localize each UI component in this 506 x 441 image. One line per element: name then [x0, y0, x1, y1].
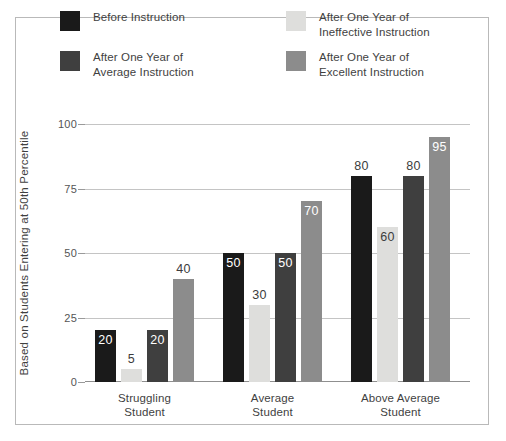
x-axis-label-struggling-student: Struggling Student — [85, 391, 205, 419]
legend-swatch-average-instruction — [60, 51, 80, 71]
bar: 40 — [173, 279, 194, 382]
bar: 20 — [95, 330, 116, 382]
chart-legend: Before Instruction After One Year of Ave… — [60, 8, 464, 90]
bar-value-label: 20 — [95, 333, 116, 347]
legend-item-ineffective-instruction: After One Year of Ineffective Instructio… — [286, 10, 430, 40]
legend-item-before-instruction: Before Instruction — [60, 10, 185, 31]
y-tick-label: 75 — [51, 183, 77, 195]
y-tick-label: 0 — [51, 376, 77, 388]
y-tick-mark — [78, 253, 85, 254]
bar: 80 — [403, 176, 424, 382]
bar-value-label: 20 — [147, 333, 168, 347]
x-axis-label-above-average-student: Above Average Student — [341, 391, 461, 419]
legend-label-average-instruction: After One Year of Average Instruction — [93, 50, 194, 80]
legend-label-excellent-instruction: After One Year of Excellent Instruction — [319, 50, 424, 80]
chart-screenshot: Before Instruction After One Year of Ave… — [0, 0, 506, 441]
y-tick-mark — [78, 382, 85, 383]
bar-value-label: 40 — [173, 262, 194, 276]
plot-area: 025507510020520405030507080608095 — [85, 124, 470, 382]
y-tick-mark — [78, 189, 85, 190]
bar-value-label: 50 — [275, 256, 296, 270]
bar: 20 — [147, 330, 168, 382]
bar-value-label: 60 — [377, 230, 398, 244]
bar: 80 — [351, 176, 372, 382]
x-axis-label-average-student: Average Student — [213, 391, 333, 419]
y-tick-label: 25 — [51, 312, 77, 324]
y-tick-label: 100 — [51, 118, 77, 130]
legend-swatch-ineffective-instruction — [286, 11, 306, 31]
y-tick-mark — [78, 124, 85, 125]
y-tick-mark — [78, 318, 85, 319]
bar: 70 — [301, 201, 322, 382]
bar: 60 — [377, 227, 398, 382]
legend-swatch-before-instruction — [60, 11, 80, 31]
y-tick-label: 50 — [51, 247, 77, 259]
bar-value-label: 80 — [351, 159, 372, 173]
bar-value-label: 50 — [223, 256, 244, 270]
bar-value-label: 95 — [429, 140, 450, 154]
bar: 30 — [249, 305, 270, 382]
legend-item-average-instruction: After One Year of Average Instruction — [60, 50, 194, 80]
y-axis-title: Based on Students Entering at 50th Perce… — [18, 124, 34, 382]
legend-label-ineffective-instruction: After One Year of Ineffective Instructio… — [319, 10, 430, 40]
bar-value-label: 5 — [121, 352, 142, 366]
bar: 95 — [429, 137, 450, 382]
bar: 50 — [275, 253, 296, 382]
legend-label-before-instruction: Before Instruction — [93, 10, 185, 25]
bar-value-label: 80 — [403, 159, 424, 173]
bar-value-label: 70 — [301, 204, 322, 218]
gridline — [85, 124, 470, 125]
bar: 50 — [223, 253, 244, 382]
bar-value-label: 30 — [249, 288, 270, 302]
legend-swatch-excellent-instruction — [286, 51, 306, 71]
bar: 5 — [121, 369, 142, 382]
legend-item-excellent-instruction: After One Year of Excellent Instruction — [286, 50, 424, 80]
